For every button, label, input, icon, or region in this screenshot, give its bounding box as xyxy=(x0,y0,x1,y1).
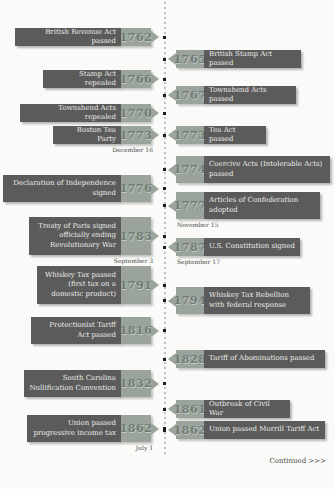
arrow-right-icon xyxy=(151,230,159,242)
timeline-event-1762-left: British Revenue Act passed1762 xyxy=(15,28,159,46)
year-badge: 1773 xyxy=(176,126,204,144)
year-badge: 1765 xyxy=(176,50,204,68)
timeline-dot xyxy=(163,329,166,332)
timeline-dot xyxy=(163,78,166,81)
timeline-event-1828-right: 1828Tariff of Abominations passed xyxy=(168,350,325,368)
timeline-event-1816-left: Protectionist Tariff Act passed1816 xyxy=(31,317,159,344)
arrow-right-icon xyxy=(151,378,159,390)
timeline-dot xyxy=(163,134,166,137)
year-badge: 1862 xyxy=(121,415,151,442)
year-badge: 1762 xyxy=(121,28,151,46)
timeline-event-1777-right: 1777Articles of Confederation adopted xyxy=(168,192,320,219)
arrow-right-icon xyxy=(151,279,159,291)
year-badge: 1783 xyxy=(121,217,151,255)
timeline-event-1770-left: Townshend Acts repealed1770 xyxy=(20,104,159,122)
event-date: November 15 xyxy=(177,221,218,228)
timeline-center-line xyxy=(164,2,166,455)
year-badge: 1766 xyxy=(121,70,151,88)
event-label: Articles of Confederation adopted xyxy=(204,192,320,219)
timeline-event-1787-right: 1787U.S. Constitution signed xyxy=(168,238,300,256)
timeline-dot xyxy=(163,204,166,207)
timeline-event-1773-left: Boston Tea Party1773 xyxy=(53,126,159,144)
event-label: Union passed Morrill Tariff Act xyxy=(204,421,325,439)
timeline-dot xyxy=(163,36,166,39)
year-badge: 1776 xyxy=(121,175,151,202)
timeline-event-1765-right: 1765British Stamp Act passed xyxy=(168,50,301,68)
event-date: September 3 xyxy=(114,257,153,264)
event-date: December 16 xyxy=(112,146,153,153)
arrow-right-icon xyxy=(151,183,159,195)
year-badge: 1861 xyxy=(176,400,204,418)
timeline-dot xyxy=(163,112,166,115)
event-label: British Revenue Act passed xyxy=(15,28,121,46)
timeline-event-1766-left: Stamp Act repealed1766 xyxy=(43,70,159,88)
timeline-dot xyxy=(163,358,166,361)
year-badge: 1767 xyxy=(176,86,204,104)
event-label: U.S. Constitution signed xyxy=(204,238,300,256)
timeline-event-1776-left: Declaration of Independence signed1776 xyxy=(3,175,159,202)
event-label: Outbreak of Civil War xyxy=(204,400,290,418)
year-badge: 1777 xyxy=(176,192,204,219)
timeline-event-1767-right: 1767Townshend Acts passed xyxy=(168,86,296,104)
event-label: Boston Tea Party xyxy=(53,126,121,144)
timeline-dot xyxy=(163,246,166,249)
year-badge: 1770 xyxy=(121,104,151,122)
event-label: Tea Act passed xyxy=(204,126,266,144)
timeline-dot xyxy=(163,429,166,432)
continued-label: Continued >>> xyxy=(269,457,326,465)
year-badge: 1794 xyxy=(176,287,204,314)
event-label: Whiskey Tax Rebellion with federal respo… xyxy=(204,287,310,314)
arrow-right-icon xyxy=(151,31,159,43)
event-label: Whiskey Tax passed (first tax on a domes… xyxy=(37,266,121,304)
arrow-right-icon xyxy=(151,107,159,119)
event-label: Protectionist Tariff Act passed xyxy=(31,317,121,344)
arrow-right-icon xyxy=(151,423,159,435)
event-label: Coercive Acts (Intolerable Acts) passed xyxy=(204,156,330,183)
timeline-event-1862-left: Union passed progressive income tax1862 xyxy=(27,415,159,442)
year-badge: 1774 xyxy=(176,156,204,183)
year-badge: 1862 xyxy=(176,421,204,439)
event-date: July 1 xyxy=(136,444,153,451)
event-label: South Carolina Nullification Convention xyxy=(24,370,121,397)
timeline-dot xyxy=(163,284,166,287)
timeline-dot xyxy=(163,235,166,238)
year-badge: 1828 xyxy=(176,350,204,368)
year-badge: 1787 xyxy=(176,238,204,256)
event-date: September 17 xyxy=(177,258,220,265)
timeline-dot xyxy=(163,299,166,302)
year-badge: 1816 xyxy=(121,317,151,344)
timeline-event-1791-left: Whiskey Tax passed (first tax on a domes… xyxy=(37,266,159,304)
event-label: Declaration of Independence signed xyxy=(3,175,121,202)
event-label: Townshend Acts passed xyxy=(204,86,296,104)
timeline-event-1861-right: 1861Outbreak of Civil War xyxy=(168,400,290,418)
timeline-event-1832-left: South Carolina Nullification Convention1… xyxy=(24,370,159,397)
timeline-event-1783-left: Treaty of Paris signed officially ending… xyxy=(29,217,159,255)
timeline-event-1862-right: 1862Union passed Morrill Tariff Act xyxy=(168,421,325,439)
year-badge: 1832 xyxy=(121,370,151,397)
event-label: Townshend Acts repealed xyxy=(20,104,121,122)
timeline-dot xyxy=(163,187,166,190)
arrow-right-icon xyxy=(151,73,159,85)
arrow-right-icon xyxy=(151,129,159,141)
event-label: Tariff of Abominations passed xyxy=(204,350,325,368)
year-badge: 1773 xyxy=(121,126,151,144)
timeline-canvas: British Revenue Act passed17621765Britis… xyxy=(0,0,335,489)
timeline-dot xyxy=(163,58,166,61)
timeline-event-1774-right: 1774Coercive Acts (Intolerable Acts) pas… xyxy=(168,156,330,183)
timeline-dot xyxy=(163,168,166,171)
timeline-dot xyxy=(163,408,166,411)
timeline-dot xyxy=(163,94,166,97)
year-badge: 1791 xyxy=(121,266,151,304)
arrow-right-icon xyxy=(151,325,159,337)
event-label: Treaty of Paris signed officially ending… xyxy=(29,217,121,255)
event-label: Stamp Act repealed xyxy=(43,70,121,88)
event-label: British Stamp Act passed xyxy=(204,50,301,68)
timeline-event-1794-right: 1794Whiskey Tax Rebellion with federal r… xyxy=(168,287,310,314)
timeline-event-1773-right: 1773Tea Act passed xyxy=(168,126,266,144)
timeline-dot xyxy=(163,382,166,385)
event-label: Union passed progressive income tax xyxy=(27,415,121,442)
